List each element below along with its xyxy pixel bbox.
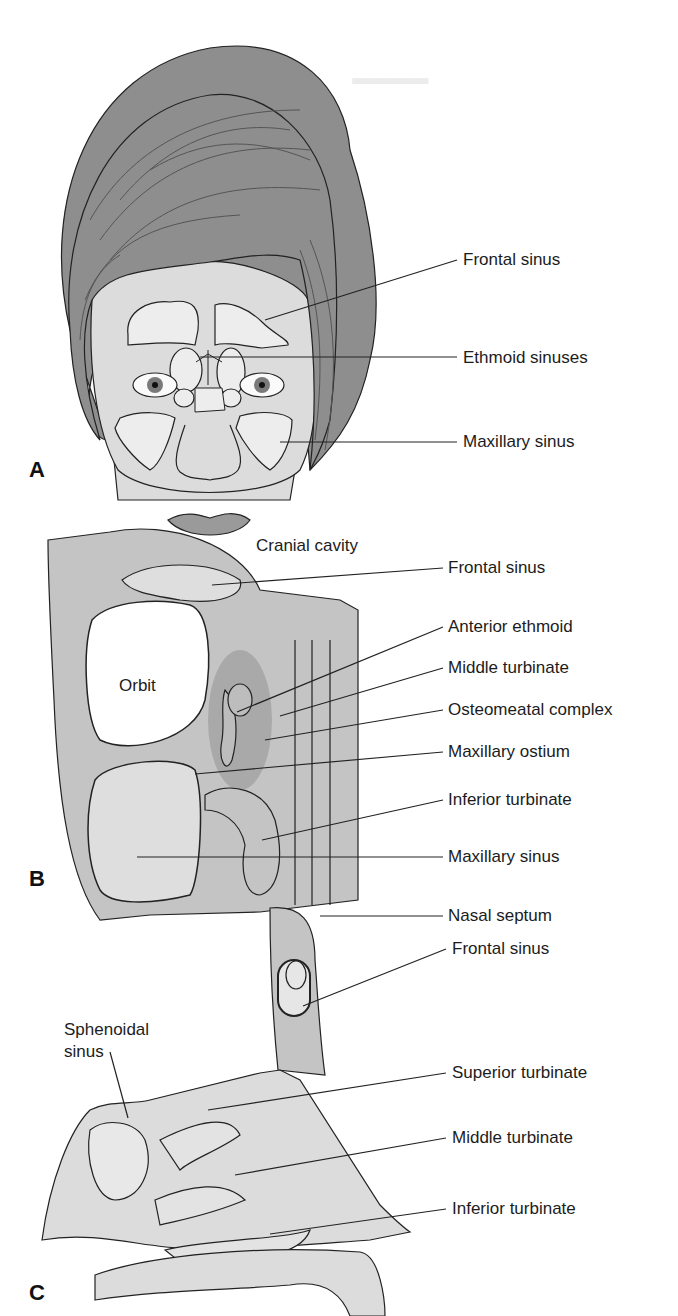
label-c-middle-turbinate: Middle turbinate	[452, 1128, 573, 1148]
label-b-maxillary-ostium: Maxillary ostium	[448, 742, 570, 762]
label-c-superior-turbinate: Superior turbinate	[452, 1063, 587, 1083]
panel-letter-c: C	[29, 1280, 45, 1306]
label-c-sinus: sinus	[64, 1042, 104, 1062]
label-b-orbit: Orbit	[119, 676, 156, 696]
label-b-anterior-ethmoid: Anterior ethmoid	[448, 617, 573, 637]
label-b-osteomeatal-complex: Osteomeatal complex	[448, 700, 612, 720]
eye-left	[133, 373, 177, 397]
panel-b-coronal	[48, 529, 443, 920]
sinus-anatomy-illustration	[0, 0, 678, 1316]
label-c-frontal-sinus: Frontal sinus	[452, 939, 549, 959]
label-b-inferior-turbinate: Inferior turbinate	[448, 790, 572, 810]
label-b-frontal-sinus: Frontal sinus	[448, 558, 545, 578]
label-b-nasal-septum: Nasal septum	[448, 906, 552, 926]
label-b-middle-turbinate: Middle turbinate	[448, 658, 569, 678]
panel-a-face	[61, 46, 457, 535]
label-c-inferior-turbinate: Inferior turbinate	[452, 1199, 576, 1219]
panel-letter-b: B	[29, 866, 45, 892]
eye-right	[240, 373, 284, 397]
label-a-frontal-sinus: Frontal sinus	[463, 250, 560, 270]
panel-c-sagittal	[42, 908, 446, 1316]
label-b-cranial-cavity: Cranial cavity	[256, 536, 358, 556]
label-b-maxillary-sinus: Maxillary sinus	[448, 847, 559, 867]
label-a-maxillary-sinus: Maxillary sinus	[463, 432, 574, 452]
panel-letter-a: A	[29, 457, 45, 483]
label-a-ethmoid-sinuses: Ethmoid sinuses	[463, 348, 588, 368]
label-c-sphenoidal: Sphenoidal	[64, 1020, 149, 1040]
